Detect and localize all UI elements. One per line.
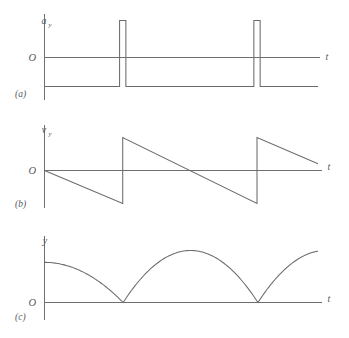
panel-a-y-axis-label: a xyxy=(42,15,47,26)
panel-c-origin-label: O xyxy=(28,297,36,308)
panel-b-y-axis-subscript: y xyxy=(47,130,52,138)
panel-c: y O t (c) xyxy=(15,235,331,323)
kinematics-figure: a y O t (a) v y O t (b) y O t (c) xyxy=(0,0,349,338)
panel-a: a y O t (a) xyxy=(15,14,329,100)
panel-a-x-axis-label: t xyxy=(326,51,329,62)
panel-a-acceleration-curve xyxy=(45,21,319,87)
panel-b: v y O t (b) xyxy=(15,124,331,210)
panel-a-origin-label: O xyxy=(28,52,36,63)
panel-c-label: (c) xyxy=(15,312,26,323)
panel-b-x-axis-label: t xyxy=(328,161,331,172)
panel-b-label: (b) xyxy=(15,199,26,210)
panel-a-y-axis-subscript: y xyxy=(47,21,52,29)
panel-a-label: (a) xyxy=(15,89,26,100)
panel-b-y-axis-label: v xyxy=(42,124,47,135)
figure-container: a y O t (a) v y O t (b) y O t (c) xyxy=(0,0,349,338)
panel-c-y-axis-label: y xyxy=(42,235,48,246)
panel-c-x-axis-label: t xyxy=(328,293,331,304)
panel-c-position-curve xyxy=(45,251,319,303)
panel-b-origin-label: O xyxy=(28,165,36,176)
